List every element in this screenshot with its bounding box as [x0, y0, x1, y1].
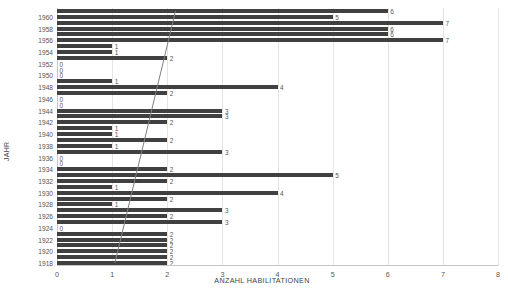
bar	[57, 173, 333, 177]
y-tick-1960: 1960	[38, 13, 53, 20]
bar-row: 1	[57, 50, 498, 54]
bar-row: 2	[57, 167, 498, 171]
bar	[57, 185, 112, 189]
y-tick-1948: 1948	[38, 84, 53, 91]
bar-value-label: 2	[167, 195, 173, 202]
bar	[57, 79, 112, 83]
bar-row: 2	[57, 232, 498, 236]
bar-row: 5	[57, 15, 498, 19]
x-axis-baseline	[57, 265, 498, 266]
bar-row: 3	[57, 220, 498, 224]
bar-row: 0	[57, 97, 498, 101]
bar-row: 2	[57, 120, 498, 124]
bar-value-label: 1	[112, 131, 118, 138]
bar	[57, 249, 167, 253]
y-tick-1940: 1940	[38, 131, 53, 138]
bar-value-label: 1	[112, 183, 118, 190]
bar-value-label: 2	[167, 166, 173, 173]
y-tick-1934: 1934	[38, 166, 53, 173]
bar	[57, 15, 333, 19]
bar	[57, 21, 443, 25]
bar-value-label: 3	[222, 219, 228, 226]
y-tick-1922: 1922	[38, 236, 53, 243]
bar-value-label: 2	[167, 136, 173, 143]
bar-row: 2	[57, 197, 498, 201]
y-tick-1946: 1946	[38, 95, 53, 102]
bar-value-label: 0	[57, 101, 63, 108]
bar-row: 2	[57, 238, 498, 242]
y-tick-1936: 1936	[38, 154, 53, 161]
bar	[57, 109, 222, 113]
bar-row: 0	[57, 156, 498, 160]
bar-value-label: 6	[388, 31, 394, 38]
y-tick-1928: 1928	[38, 201, 53, 208]
y-tick-1954: 1954	[38, 48, 53, 55]
bar	[57, 220, 222, 224]
bar-row: 3	[57, 109, 498, 113]
bar	[57, 232, 167, 236]
bar-row: 1	[57, 144, 498, 148]
bar	[57, 126, 112, 130]
bar	[57, 132, 112, 136]
bar-row: 6	[57, 9, 498, 13]
y-tick-1952: 1952	[38, 60, 53, 67]
y-tick-1924: 1924	[38, 224, 53, 231]
bar-value-label: 2	[167, 119, 173, 126]
bar-row: 0	[57, 73, 498, 77]
bar-row: 0	[57, 68, 498, 72]
bar	[57, 50, 112, 54]
bar-value-label: 3	[222, 148, 228, 155]
y-tick-1950: 1950	[38, 72, 53, 79]
y-tick-1942: 1942	[38, 119, 53, 126]
bar	[57, 27, 388, 31]
bar-row: 1	[57, 132, 498, 136]
bar	[57, 114, 222, 118]
bar-value-label: 6	[388, 7, 394, 14]
bar-value-label: 5	[333, 172, 339, 179]
bar-value-label: 1	[112, 201, 118, 208]
y-tick-1930: 1930	[38, 189, 53, 196]
bar-value-label: 1	[112, 78, 118, 85]
bar-row: 1	[57, 44, 498, 48]
bar-row: 3	[57, 114, 498, 118]
bar-row: 1	[57, 126, 498, 130]
bar-value-label: 3	[222, 113, 228, 120]
bar-value-label: 2	[167, 177, 173, 184]
bar	[57, 144, 112, 148]
bar-row: 0	[57, 226, 498, 230]
bar	[57, 44, 112, 48]
bar-row: 2	[57, 243, 498, 247]
bar-value-label: 2	[167, 54, 173, 61]
y-tick-1926: 1926	[38, 213, 53, 220]
y-tick-1944: 1944	[38, 107, 53, 114]
bar-row: 3	[57, 208, 498, 212]
bar-row: 4	[57, 191, 498, 195]
bar-value-label: 0	[57, 160, 63, 167]
plot-area: 6576671120001420033211213002521421323022…	[57, 8, 498, 266]
bar-row: 2	[57, 255, 498, 259]
bar	[57, 56, 167, 60]
bar	[57, 202, 112, 206]
x-axis-title: ANZAHL HABILITATIONEN	[0, 276, 508, 285]
bar-value-label: 4	[278, 189, 284, 196]
y-tick-1938: 1938	[38, 142, 53, 149]
bar-row: 6	[57, 27, 498, 31]
bar-row: 0	[57, 103, 498, 107]
bar-value-label: 0	[57, 224, 63, 231]
bar-row: 0	[57, 161, 498, 165]
bar-row: 4	[57, 85, 498, 89]
y-tick-1920: 1920	[38, 248, 53, 255]
bar-row: 2	[57, 91, 498, 95]
bar-value-label: 2	[167, 90, 173, 97]
y-tick-1958: 1958	[38, 25, 53, 32]
bar-row: 2	[57, 138, 498, 142]
bar-value-label: 7	[443, 37, 449, 44]
bar-row: 6	[57, 32, 498, 36]
bar-row: 1	[57, 202, 498, 206]
bar-value-label: 3	[222, 207, 228, 214]
y-tick-1956: 1956	[38, 37, 53, 44]
bar	[57, 238, 167, 242]
bar	[57, 243, 167, 247]
bar-row: 0	[57, 62, 498, 66]
bar-row: 2	[57, 249, 498, 253]
